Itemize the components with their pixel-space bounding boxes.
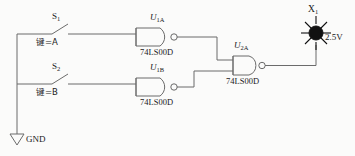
wire-u2a-out-to-lamp (265, 45, 316, 66)
switch-key-label-s2: 键=B (36, 88, 58, 97)
gate-part-u2a: 74LS00D (226, 77, 259, 86)
wire-u1a-out-to-u2a (177, 37, 233, 60)
switch-key-label-s1: 键=A (36, 38, 58, 47)
gate-body-u1b (136, 78, 165, 96)
gate-ref-u2a: U2A (234, 41, 248, 50)
switch-blade-s1[interactable] (52, 24, 68, 34)
ground-symbol (10, 134, 24, 145)
output-bubble-u1a (171, 34, 177, 40)
switch-blade-s2[interactable] (52, 74, 68, 84)
gate-body-u1a (136, 28, 165, 46)
gate-part-u1b: 74LS00D (140, 98, 173, 107)
circuit-schematic-canvas (0, 0, 355, 156)
switch-label-s1: S1 (52, 12, 60, 21)
output-bubble-u2a (259, 62, 265, 68)
wire-u1b-out-to-u2a (177, 71, 233, 87)
gate-part-u1a: 74LS00D (140, 48, 173, 57)
switch-label-s2: S2 (52, 62, 60, 71)
gate-ref-u1a: U1A (150, 13, 164, 22)
circuit-diagram: S1 键=A S2 键=B U1A 74LS00D U1B 74LS00D U2… (0, 0, 355, 156)
gate-body-u2a (233, 56, 256, 75)
lamp-voltage-label: 2.5V (325, 33, 343, 42)
output-bubble-u1b (171, 84, 177, 90)
gate-ref-u1b: U1B (150, 63, 164, 72)
lamp-indicator-x1[interactable] (309, 26, 323, 40)
lamp-ref-label: X1 (308, 5, 318, 15)
ground-label: GND (26, 135, 46, 144)
